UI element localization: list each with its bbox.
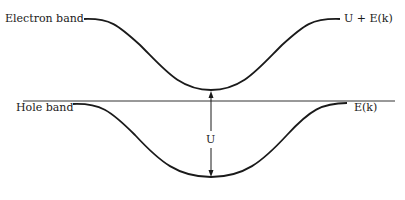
hole-band-label: Hole band: [16, 102, 73, 113]
electron-band-label: Electron band: [5, 13, 84, 24]
gap-label: U: [206, 134, 215, 145]
electron-band-energy-label: U + E(k): [344, 13, 393, 24]
hole-band-energy-label: E(k): [354, 102, 377, 113]
electron-band-curve: [84, 19, 340, 90]
arrow-head-up-icon: [209, 91, 214, 98]
band-diagram: Electron band U + E(k) Hole band E(k) U: [0, 0, 405, 200]
arrow-head-down-icon: [209, 170, 214, 177]
band-diagram-svg: [0, 0, 405, 200]
